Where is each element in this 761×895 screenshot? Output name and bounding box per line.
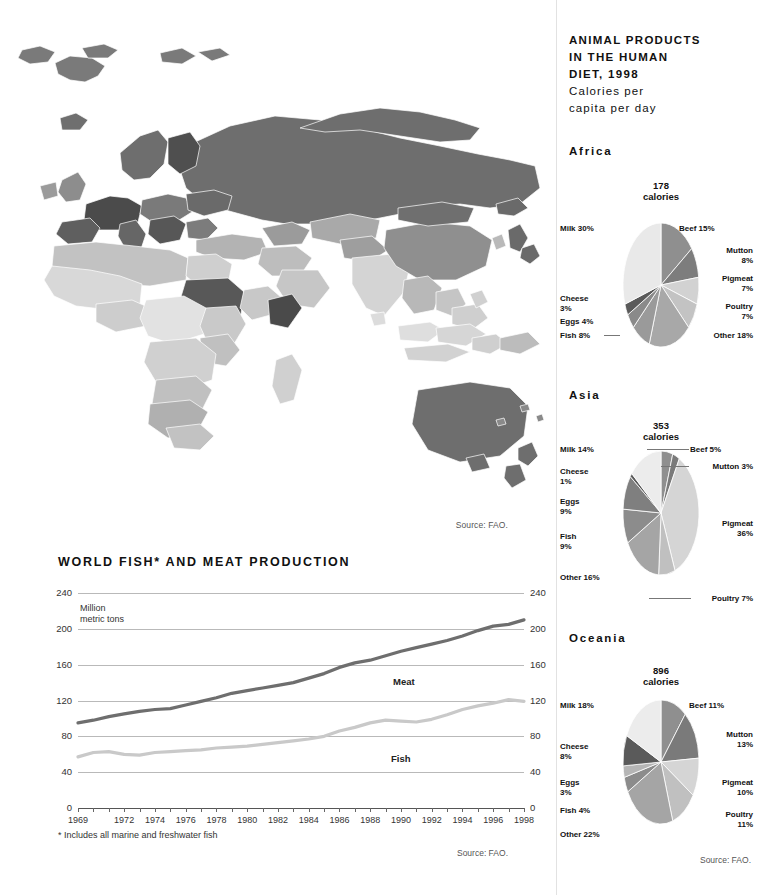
x-axis-tick <box>109 808 110 812</box>
pie-label-text: Pigmeat <box>722 778 753 787</box>
calories-value: 353 <box>653 420 669 431</box>
series-line-meat[interactable] <box>78 620 524 723</box>
pie-label-text: Fish 8% <box>560 331 590 340</box>
pie-label-text: Milk 30% <box>560 224 594 233</box>
world-choropleth-map[interactable] <box>0 8 545 520</box>
x-axis-tick <box>293 808 294 812</box>
pie-label-text: Eggs <box>560 778 580 787</box>
x-axis-tick <box>432 808 433 812</box>
subtitle-line-2: capita per day <box>569 102 657 114</box>
pie-label-other-africa: Other 18% <box>713 331 753 341</box>
calories-unit: calories <box>643 191 679 202</box>
x-axis-label: 1992 <box>422 815 442 825</box>
pie-label-text: Mutton <box>726 730 753 739</box>
pie-label-mutton-asia: Mutton 3% <box>713 462 753 472</box>
pie-label-eggs-asia: Eggs9% <box>560 497 580 516</box>
calories-block-oceania: 896calories <box>631 665 691 687</box>
pie-label-text: Beef 15% <box>679 224 715 233</box>
pie-leader-line <box>661 466 689 467</box>
pie-label-text: Cheese <box>560 294 588 303</box>
x-axis-tick <box>216 808 217 812</box>
x-axis-tick <box>93 808 94 812</box>
calories-unit: calories <box>643 676 679 687</box>
pie-label-text: 3% <box>560 304 572 313</box>
pie-label-text: 1% <box>560 477 572 486</box>
series-line-fish[interactable] <box>78 700 524 757</box>
pie-label-cheese-oceania: Cheese8% <box>560 742 588 761</box>
pie-charts-panel: ANIMAL PRODUCTS IN THE HUMAN DIET, 1998 … <box>557 0 761 895</box>
pie-leader-line <box>649 598 691 599</box>
pie-label-text: Cheese <box>560 742 588 751</box>
x-axis-tick <box>386 808 387 812</box>
pie-label-cheese-africa: Cheese3% <box>560 294 588 313</box>
x-axis-tick <box>124 808 125 812</box>
x-axis-tick <box>370 808 371 812</box>
x-axis-label: 1980 <box>237 815 257 825</box>
x-axis-tick <box>509 808 510 812</box>
pie-label-text: Fish 4% <box>560 806 590 815</box>
x-axis-label: 1994 <box>452 815 472 825</box>
x-axis-tick <box>416 808 417 812</box>
pie-label-text: 10% <box>737 788 753 797</box>
title-line-3: DIET, 1998 <box>569 68 639 80</box>
pie-label-fish-asia: Fish9% <box>560 532 576 551</box>
x-axis-tick <box>339 808 340 812</box>
pie-label-beef-africa: Beef 15% <box>679 224 715 234</box>
pie-label-text: Poultry <box>725 810 753 819</box>
x-axis-label: 1974 <box>145 815 165 825</box>
pie-label-text: 7% <box>741 312 753 321</box>
y-axis-tick-left: 0 <box>32 802 72 813</box>
x-axis <box>78 808 524 809</box>
x-axis-tick <box>493 808 494 812</box>
series-label-fish: Fish <box>391 753 411 764</box>
title-line-2: IN THE HUMAN <box>569 51 668 63</box>
pie-label-text: 11% <box>737 820 753 829</box>
y-axis-tick-left: 120 <box>32 695 72 706</box>
pie-label-text: Eggs 4% <box>560 317 593 326</box>
pie-label-mutton-africa: Mutton8% <box>726 246 753 265</box>
pie-label-text: Other 16% <box>560 573 600 582</box>
x-axis-tick <box>401 808 402 812</box>
x-axis-tick <box>155 808 156 812</box>
x-axis-tick <box>355 808 356 812</box>
pie-label-text: Poultry <box>725 302 753 311</box>
x-axis-tick <box>170 808 171 812</box>
pie-label-text: Milk 18% <box>560 701 594 710</box>
pie-chart-africa[interactable] <box>619 219 703 351</box>
pie-chart-oceania[interactable] <box>619 696 703 828</box>
pie-label-mutton-oceania: Mutton13% <box>726 730 753 749</box>
x-axis-label: 1984 <box>299 815 319 825</box>
line-chart-source-note: Source: FAO. <box>457 848 508 858</box>
pie-label-text: 9% <box>560 507 572 516</box>
calories-value: 178 <box>653 180 669 191</box>
y-axis-tick-left: 40 <box>32 766 72 777</box>
line-chart-plot[interactable]: Millionmetric tons 004040808012012016016… <box>78 593 524 808</box>
x-axis-label: 1972 <box>114 815 134 825</box>
x-axis-tick <box>186 808 187 812</box>
x-axis-tick <box>524 808 525 812</box>
pie-label-text: 7% <box>741 284 753 293</box>
pie-label-cheese-asia: Cheese1% <box>560 467 588 486</box>
calories-block-africa: 178calories <box>631 180 691 202</box>
line-series-svg <box>78 593 524 808</box>
pie-label-text: Beef 11% <box>689 701 724 710</box>
pie-label-poultry-oceania: Poultry11% <box>725 810 753 829</box>
pie-panel-title: ANIMAL PRODUCTS IN THE HUMAN DIET, 1998 … <box>569 32 759 117</box>
calories-unit: calories <box>643 431 679 442</box>
pie-label-beef-asia: Beef 5% <box>690 445 721 455</box>
y-axis-tick-left: 80 <box>32 730 72 741</box>
pie-label-milk-asia: Milk 14% <box>560 445 594 455</box>
region-title-oceania: Oceania <box>569 632 626 644</box>
pie-label-pigmeat-oceania: Pigmeat10% <box>722 778 753 797</box>
x-axis-tick <box>278 808 279 812</box>
x-axis-tick <box>263 808 264 812</box>
pie-label-text: Fish <box>560 532 576 541</box>
pie-label-milk-africa: Milk 30% <box>560 224 594 234</box>
pie-label-text: 8% <box>741 256 753 265</box>
pie-label-fish-africa: Fish 8% <box>560 331 590 341</box>
pie-label-text: Other 18% <box>713 331 753 340</box>
pie-leader-line <box>647 449 689 450</box>
pie-label-milk-oceania: Milk 18% <box>560 701 594 711</box>
x-axis-label: 1976 <box>176 815 196 825</box>
x-axis-label: 1996 <box>483 815 503 825</box>
